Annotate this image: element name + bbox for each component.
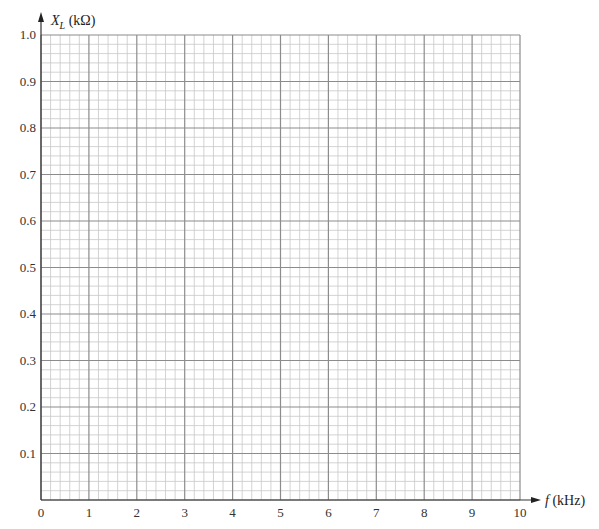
x-tick-label: 4	[229, 505, 236, 520]
major-grid	[41, 35, 520, 500]
x-tick-label: 3	[181, 505, 188, 520]
x-tick-label: 1	[86, 505, 93, 520]
x-tick-label: 6	[325, 505, 332, 520]
y-tick-labels: 0.10.20.30.40.50.60.70.80.91.0	[20, 27, 37, 461]
y-tick-label: 0.2	[20, 399, 36, 414]
y-axis-arrow-icon	[38, 12, 44, 22]
y-axis-title: XL (kΩ)	[50, 13, 96, 31]
x-tick-label: 0	[38, 505, 45, 520]
y-tick-label: 1.0	[20, 27, 36, 42]
y-tick-label: 0.6	[20, 213, 37, 228]
y-tick-label: 0.1	[20, 446, 36, 461]
graph-paper-chart: 012345678910 0.10.20.30.40.50.60.70.80.9…	[0, 0, 599, 529]
y-tick-label: 0.7	[20, 167, 37, 182]
axes	[41, 18, 533, 500]
x-tick-label: 5	[277, 505, 284, 520]
x-tick-label: 8	[421, 505, 428, 520]
y-tick-label: 0.9	[20, 74, 36, 89]
x-tick-label: 7	[373, 505, 380, 520]
x-tick-labels: 012345678910	[38, 505, 527, 520]
y-tick-label: 0.8	[20, 120, 36, 135]
y-tick-label: 0.3	[20, 353, 36, 368]
x-axis-arrow-icon	[531, 497, 541, 503]
x-tick-label: 9	[469, 505, 476, 520]
x-tick-label: 2	[134, 505, 141, 520]
x-axis-title: f (kHz)	[545, 493, 585, 509]
x-tick-label: 10	[514, 505, 527, 520]
y-tick-label: 0.4	[20, 306, 37, 321]
y-tick-label: 0.5	[20, 260, 36, 275]
